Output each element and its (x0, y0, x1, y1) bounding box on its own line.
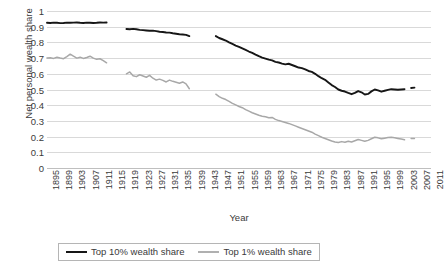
x-axis-tick-label: 2011 (435, 170, 445, 189)
x-axis-tick-label: 1919 (130, 170, 140, 190)
y-axis-tick-label: 0.2 (31, 131, 44, 142)
x-axis-tick-label: 1935 (183, 170, 193, 190)
x-axis-tick-label: 1959 (263, 170, 273, 190)
x-axis-tick-label: 2003 (409, 170, 419, 190)
series-line-top10 (126, 29, 189, 36)
x-axis-tick-label: 1971 (303, 170, 313, 190)
series-line-top10 (47, 22, 107, 23)
series-line-top1 (47, 54, 107, 63)
series-layer (47, 11, 431, 168)
x-axis-tick-label: 1911 (104, 170, 114, 189)
x-axis-tick-label: 1991 (369, 170, 379, 190)
x-axis-tick-label: 1939 (197, 170, 207, 190)
x-axis-tick-label: 1943 (210, 170, 220, 190)
x-axis-tick-label: 1995 (382, 170, 392, 190)
x-axis-tick-label: 1927 (157, 170, 167, 190)
x-axis-tick-labels: 1895189919031907191119151919192319271931… (47, 170, 431, 210)
series-line-top1 (126, 72, 189, 89)
legend-swatch-icon (198, 251, 219, 253)
legend-item[interactable]: Top 10% wealth share (66, 246, 184, 257)
x-axis-tick-label: 1931 (170, 170, 180, 190)
x-axis-tick-label: 1983 (342, 170, 352, 190)
legend-swatch-icon (66, 251, 87, 253)
x-axis-tick-label: 1899 (64, 170, 74, 190)
series-line-top1 (216, 94, 405, 142)
y-axis-tick-label: 0.6 (31, 68, 44, 79)
x-axis-tick-label: 1895 (51, 170, 61, 190)
y-axis-tick-label: 1 (39, 6, 44, 17)
x-axis-tick-label: 1915 (117, 170, 127, 190)
x-axis-tick-label: 1979 (329, 170, 339, 190)
x-axis-tick-label: 1903 (77, 170, 87, 190)
x-axis-tick-label: 1963 (276, 170, 286, 190)
y-axis-tick-label: 0.3 (31, 115, 44, 126)
x-axis-tick-label: 1951 (236, 170, 246, 190)
y-axis-tick-label: 0 (39, 163, 44, 174)
y-axis-tick-labels: 00.10.20.30.40.50.60.70.80.91 (20, 0, 44, 170)
x-axis-tick-label: 1923 (144, 170, 154, 190)
y-axis-tick-label: 0.5 (31, 84, 44, 95)
legend-label: Top 10% wealth share (91, 246, 184, 257)
y-axis-tick-label: 0.4 (31, 100, 44, 111)
x-axis-baseline (47, 168, 431, 169)
series-line-top10 (216, 36, 405, 94)
x-axis-tick-label: 1999 (395, 170, 405, 190)
x-axis-tick-label: 1987 (356, 170, 366, 190)
x-axis-tick-label: 1975 (316, 170, 326, 190)
x-axis-tick-label: 1907 (91, 170, 101, 190)
y-axis-tick-label: 0.7 (31, 53, 44, 64)
x-axis-tick-label: 2007 (422, 170, 432, 190)
x-axis-title: Year (47, 212, 431, 223)
plot-area (47, 11, 431, 168)
x-axis-tick-label: 1967 (289, 170, 299, 190)
y-axis-tick-label: 0.1 (31, 147, 44, 158)
chart-legend: Top 10% wealth shareTop 1% wealth share (58, 243, 320, 261)
legend-label: Top 1% wealth share (223, 246, 311, 257)
legend-item[interactable]: Top 1% wealth share (198, 246, 311, 257)
y-axis-tick-label: 0.8 (31, 37, 44, 48)
x-axis-tick-label: 1955 (250, 170, 260, 190)
y-axis-tick-label: 0.9 (31, 21, 44, 32)
x-axis-tick-label: 1947 (223, 170, 233, 190)
